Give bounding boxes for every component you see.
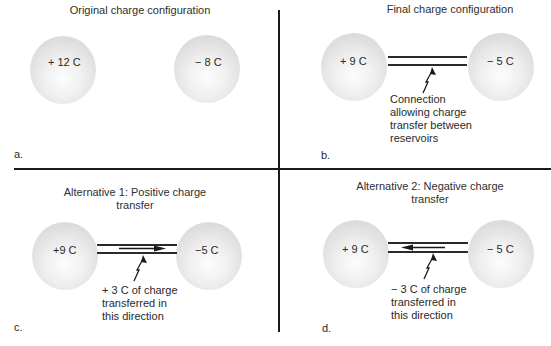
transfer-annotation: + 3 C of charge transferred in this dire… xyxy=(102,284,178,323)
sphere-charge-label: +9 C xyxy=(53,244,77,256)
sphere-charge-label: − 8 C xyxy=(195,56,222,68)
sphere-charge-label: −5 C xyxy=(195,244,219,256)
sphere-negative xyxy=(174,35,240,103)
panel-c-letter: c. xyxy=(14,321,23,333)
connection-annotation: Connection allowing charge transfer betw… xyxy=(390,93,472,145)
sphere-charge-label: − 5 C xyxy=(487,55,514,67)
panel-a-title: Original charge configuration xyxy=(50,4,230,17)
lightning-pointer-icon xyxy=(421,252,441,280)
charge-transfer-diagram: Original charge configuration + 12 C − 8… xyxy=(0,0,551,346)
sphere-charge-label: + 9 C xyxy=(340,55,367,67)
sphere-positive xyxy=(321,33,387,101)
panel-d-title: Alternative 2: Negative charge transfer xyxy=(350,180,510,206)
lightning-pointer-icon xyxy=(131,254,151,282)
sphere-negative xyxy=(176,222,242,290)
panel-a-letter: a. xyxy=(14,148,23,160)
sphere-negative xyxy=(468,33,534,101)
panel-b-letter: b. xyxy=(321,149,330,161)
panel-b-title: Final charge configuration xyxy=(360,3,540,16)
transfer-annotation: − 3 C of charge transferred in this dire… xyxy=(391,283,467,322)
arrow-right-icon xyxy=(118,244,168,254)
panel-c-title: Alternative 1: Positive charge transfer xyxy=(55,186,215,212)
vertical-divider xyxy=(278,10,280,332)
sphere-charge-label: + 12 C xyxy=(48,56,81,68)
sphere-charge-label: + 9 C xyxy=(342,243,369,255)
panel-d-letter: d. xyxy=(322,322,331,334)
lightning-pointer-icon xyxy=(420,66,440,94)
connection-wire-top xyxy=(388,56,467,58)
horizontal-divider xyxy=(14,168,551,170)
sphere-charge-label: − 5 C xyxy=(487,243,514,255)
sphere-positive xyxy=(30,36,96,104)
sphere-positive xyxy=(32,222,98,290)
